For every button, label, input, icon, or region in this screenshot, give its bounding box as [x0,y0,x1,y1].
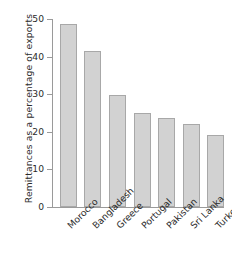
y-axis-tick: 20 [47,132,52,133]
bar [134,113,151,207]
y-axis-tick: 0 [47,207,52,208]
y-axis-tick: 30 [47,94,52,95]
y-axis-tick-label: 20 [32,126,44,137]
bar [183,124,200,207]
y-axis-line [52,19,53,207]
y-axis-tick: 50 [47,19,52,20]
y-axis-tick: 40 [47,57,52,58]
bar [60,24,77,207]
y-axis-tick-label: 0 [38,201,44,212]
y-axis-tick-label: 30 [32,88,44,99]
bar [158,118,175,207]
y-axis-tick-label: 10 [32,163,44,174]
y-axis-title: Remittances as a percentage of exports [23,9,34,209]
y-axis-tick: 10 [47,169,52,170]
y-axis-tick-label: 40 [32,51,44,62]
bar-chart: Remittances as a percentage of exports 0… [0,0,232,268]
y-axis-tick-label: 50 [32,13,44,24]
plot-area: 01020304050 MoroccoBangladeshGreecePortu… [52,12,224,207]
bar [84,51,101,207]
